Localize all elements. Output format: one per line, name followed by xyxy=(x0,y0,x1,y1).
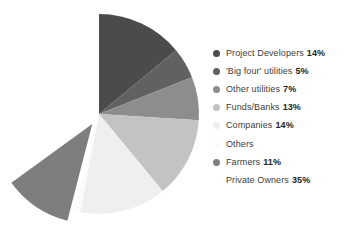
pie-svg xyxy=(0,0,210,231)
legend-item[interactable]: Funds/Banks13% xyxy=(213,99,344,117)
legend-item[interactable]: Project Developers14% xyxy=(213,44,344,62)
legend-item[interactable]: 'Big four' utilities5% xyxy=(213,62,344,80)
legend-swatch-dot-icon xyxy=(213,177,220,184)
legend-item-label: Farmers xyxy=(226,158,260,167)
legend-item-percent: 5% xyxy=(295,67,308,76)
legend-swatch-dot-icon xyxy=(213,104,220,111)
legend-item-percent: 14% xyxy=(307,49,325,58)
pie-plot-area xyxy=(0,0,210,231)
legend-item[interactable]: Private Owners35% xyxy=(213,171,344,189)
legend-item-label: Private Owners xyxy=(226,176,289,185)
legend-swatch-dot-icon xyxy=(213,50,220,57)
pie-chart-figure: Project Developers14%'Big four' utilitie… xyxy=(0,0,344,231)
legend-item[interactable]: Farmers11% xyxy=(213,153,344,171)
legend-swatch-dot-icon xyxy=(213,141,220,148)
legend-swatch-dot-icon xyxy=(213,68,220,75)
legend-item-percent: 7% xyxy=(283,85,296,94)
legend-swatch-dot-icon xyxy=(213,122,220,129)
legend-item-label: Others xyxy=(226,140,254,149)
legend-item[interactable]: Other utilities7% xyxy=(213,80,344,98)
legend-item[interactable]: Companies14% xyxy=(213,117,344,135)
legend-item-percent: 13% xyxy=(283,103,301,112)
legend-item-percent: 35% xyxy=(292,176,310,185)
legend-item-label: Other utilities xyxy=(226,85,280,94)
chart-legend: Project Developers14%'Big four' utilitie… xyxy=(213,44,344,190)
legend-item-label: 'Big four' utilities xyxy=(226,67,292,76)
pie-slice-group xyxy=(11,14,199,221)
legend-item[interactable]: Others xyxy=(213,135,344,153)
legend-swatch-dot-icon xyxy=(213,159,220,166)
legend-item-percent: 11% xyxy=(263,158,281,167)
legend-item-percent: 14% xyxy=(275,121,293,130)
legend-swatch-dot-icon xyxy=(213,86,220,93)
legend-item-label: Funds/Banks xyxy=(226,103,280,112)
legend-item-label: Companies xyxy=(226,121,272,130)
legend-item-label: Project Developers xyxy=(226,49,304,58)
